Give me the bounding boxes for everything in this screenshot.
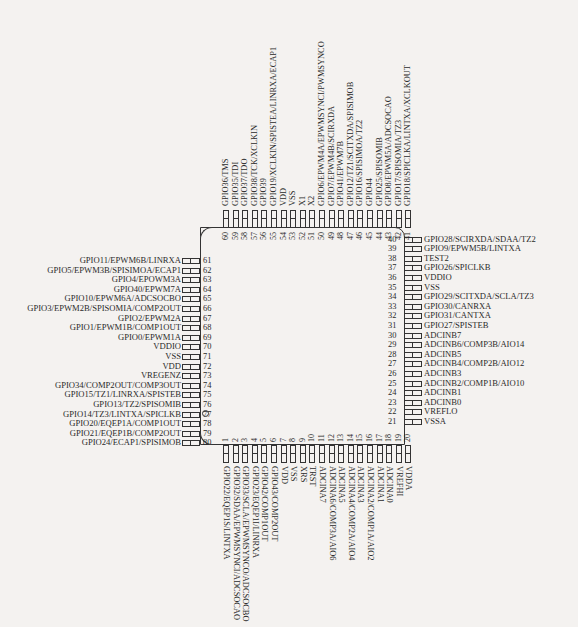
pin-number: 47 — [347, 232, 355, 240]
pin-stub — [233, 210, 239, 228]
pin-label: VSS — [289, 191, 297, 206]
pin-stub — [223, 445, 229, 463]
pin-number: 23 — [388, 398, 396, 407]
pin-label: GPIO19/XCLKIN/SPISTEA/LINRXA/ECAP1 — [270, 47, 278, 206]
pin-number: 75 — [203, 390, 211, 399]
pin-label: ADCINB0 — [424, 398, 461, 407]
pin-stub — [271, 445, 277, 463]
pin-stub — [309, 445, 315, 463]
pin-number: 14 — [347, 434, 355, 442]
pin-label: GPIO11/EPWM6B/LINRXA — [80, 256, 181, 265]
pin-number: 61 — [203, 256, 211, 265]
pin-number: 79 — [203, 429, 211, 438]
pin-stub — [182, 354, 200, 360]
pin-number: 45 — [366, 232, 374, 240]
pin-stub — [290, 210, 296, 228]
pin-stub — [252, 210, 258, 228]
pin-stub — [404, 294, 422, 300]
pin-stub — [377, 445, 383, 463]
pin-label: ADCINA1 — [376, 466, 384, 503]
pin-number: 37 — [388, 263, 396, 272]
pin-label: GPIO1/EPWM1B/COMP1OUT — [70, 323, 181, 332]
pin-label: VREFHI — [395, 466, 403, 496]
pin-stub — [348, 445, 354, 463]
pin-label: ADCINA7 — [318, 466, 326, 503]
pin-stub — [404, 333, 422, 339]
pin-label: ADCINA5 — [337, 466, 345, 503]
pin-number: 46 — [356, 232, 364, 240]
pin-label: GPIO7/EPWM4B/SCIRXDA — [328, 106, 336, 206]
pin-number: 53 — [289, 232, 297, 240]
pin-label: VSS — [165, 352, 181, 361]
pin-stub — [404, 275, 422, 281]
pin-stub — [338, 210, 344, 228]
pin-label: ADCINA4/COMP2A/AIO4 — [347, 466, 355, 560]
pin-label: ADCINA2/COMP1A/AIO2 — [366, 466, 374, 560]
pin-number: 2 — [232, 438, 240, 442]
pin-label: GPIO39 — [260, 178, 268, 206]
pin-stub — [223, 210, 229, 228]
pin-label: VDD — [280, 188, 288, 206]
pin-stub — [182, 258, 200, 264]
pin-number: 70 — [203, 342, 211, 351]
pin-label: GPIO42/COMP1OUT — [260, 466, 268, 541]
pin-number: 80 — [203, 438, 211, 447]
pin-number: 55 — [270, 232, 278, 240]
pin-stub — [404, 419, 422, 425]
pin-stub — [233, 445, 239, 463]
pin-label: ADCINB6/COMP3B/AIO14 — [424, 340, 524, 349]
pin-stub — [242, 210, 248, 228]
pin-stub — [182, 440, 200, 446]
pin-label: GPIO37/TDO — [241, 159, 249, 206]
pin-number: 33 — [388, 302, 396, 311]
pin-number: 50 — [318, 232, 326, 240]
pin-label: VDD — [280, 466, 288, 484]
pin-stub — [290, 445, 296, 463]
pin-stub — [404, 323, 422, 329]
pin-stub — [182, 373, 200, 379]
pin-number: 57 — [251, 232, 259, 240]
pin-stub — [182, 383, 200, 389]
pin-stub — [281, 210, 287, 228]
pin-number: 71 — [203, 352, 211, 361]
pin-number: 39 — [388, 244, 396, 253]
pin-stub — [404, 285, 422, 291]
pin-number: 24 — [388, 388, 396, 397]
pin-label: GPIO16/SPISIMOA/TZ2 — [356, 120, 364, 206]
chip-body — [200, 227, 405, 445]
pin-number: 74 — [203, 381, 211, 390]
pin-stub — [396, 445, 402, 463]
pin-number: 5 — [260, 438, 268, 442]
pin-stub — [182, 402, 200, 408]
pin-number: 43 — [385, 232, 393, 240]
pin-label: ADCINB3 — [424, 369, 461, 378]
pin-label: GPIO36/TMS — [222, 159, 230, 206]
pin-label: VDDA — [404, 466, 412, 490]
pin-number: 12 — [328, 434, 336, 442]
pin-label: TRST — [308, 466, 316, 486]
pin-label: GPIO44 — [366, 178, 374, 206]
pin-label: ADCINA3 — [356, 466, 364, 503]
pin-stub — [386, 210, 392, 228]
pin-label: GPIO38/TCK/XCLKIN — [251, 125, 259, 206]
pin-number: 18 — [385, 434, 393, 442]
pin-stub — [404, 390, 422, 396]
pin-number: 7 — [280, 438, 288, 442]
pin-stub — [281, 445, 287, 463]
pin-label: GPIO3/EPWM2B/SPISOMIA/COMP2OUT — [27, 304, 181, 313]
pin-label: GPIO8/EPWM5A/ADCSOCAO — [385, 96, 393, 206]
pin-stub — [329, 210, 335, 228]
pin-label: GPIO25/SPISOMIB — [376, 137, 384, 206]
pin-label: GPIO31/CANTXA — [424, 311, 491, 320]
pin-label: GPIO35/TDI — [232, 162, 240, 206]
pin-stub — [404, 371, 422, 377]
pin-number: 36 — [388, 273, 396, 282]
pin-label: GPIO18/SPICLKA/LINTXA/XCLKOUT — [404, 65, 412, 206]
pin-label: GPIO29/SCITXDA/SCLA/TZ3 — [424, 292, 534, 301]
pin-label: ADCINB1 — [424, 388, 461, 397]
pin-number: 51 — [308, 232, 316, 240]
pin-stub — [252, 445, 258, 463]
pin-stub — [182, 421, 200, 427]
pin-stub — [404, 256, 422, 262]
pin-stub — [405, 445, 411, 463]
